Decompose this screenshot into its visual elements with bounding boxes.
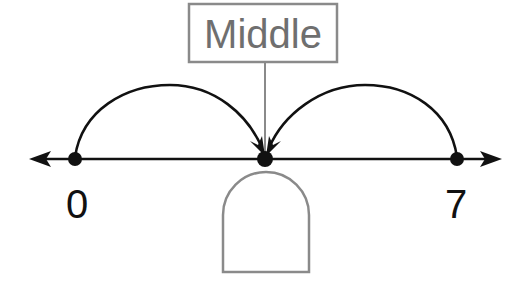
point-start [68,152,82,166]
left-jump-arc [75,85,262,157]
middle-label-box: Middle [189,4,337,62]
number-line-diagram: Middle 0 7 [0,0,528,298]
point-middle [257,151,273,167]
middle-label: Middle [204,12,322,56]
right-jump-arc [269,85,457,157]
answer-box[interactable] [223,172,309,272]
end-label: 7 [445,182,467,226]
point-end [450,152,464,166]
start-label: 0 [66,182,88,226]
